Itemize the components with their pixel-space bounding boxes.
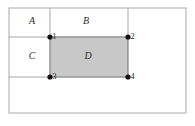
region-label-c: C xyxy=(29,50,36,61)
region-label-b: B xyxy=(83,15,89,26)
rectangle-subdivision-diagram: ABCD 1234 xyxy=(0,0,195,126)
region-label-d: D xyxy=(83,50,92,61)
figure-canvas: ABCD 1234 xyxy=(0,0,195,126)
vertex-label-1: 1 xyxy=(53,32,57,41)
vertex-label-4: 4 xyxy=(131,72,135,81)
vertex-label-2: 2 xyxy=(131,32,135,41)
vertex-label-3: 3 xyxy=(53,72,57,81)
region-label-a: A xyxy=(28,15,36,26)
